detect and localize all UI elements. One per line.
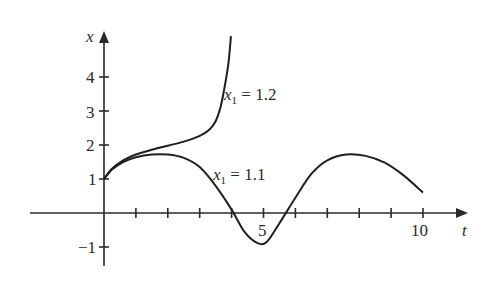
t-axis-arrow-icon [456, 208, 468, 218]
tick-label-y2: 2 [86, 136, 95, 155]
tick-label-y3: 3 [86, 103, 95, 122]
tick-label-yneg1: −1 [78, 238, 96, 257]
tick-label-5: 5 [258, 221, 267, 240]
tick-label-y1: 1 [88, 170, 97, 189]
t-axis-label: t [462, 221, 468, 240]
annotation-x1-1.2: x1 = 1.2 [223, 85, 276, 106]
x-axis-arrow-icon [99, 31, 109, 43]
tick-label-y4: 4 [86, 68, 95, 87]
curve-x1-1.2 [104, 36, 231, 179]
chart-canvas: x t 5 10 4 3 2 1 −1 x1 = 1.2 x1 = 1.1 [0, 0, 491, 283]
tick-label-10: 10 [411, 221, 428, 240]
x-axis-label: x [85, 27, 94, 46]
annotation-x1-1.1: x1 = 1.1 [212, 165, 265, 186]
